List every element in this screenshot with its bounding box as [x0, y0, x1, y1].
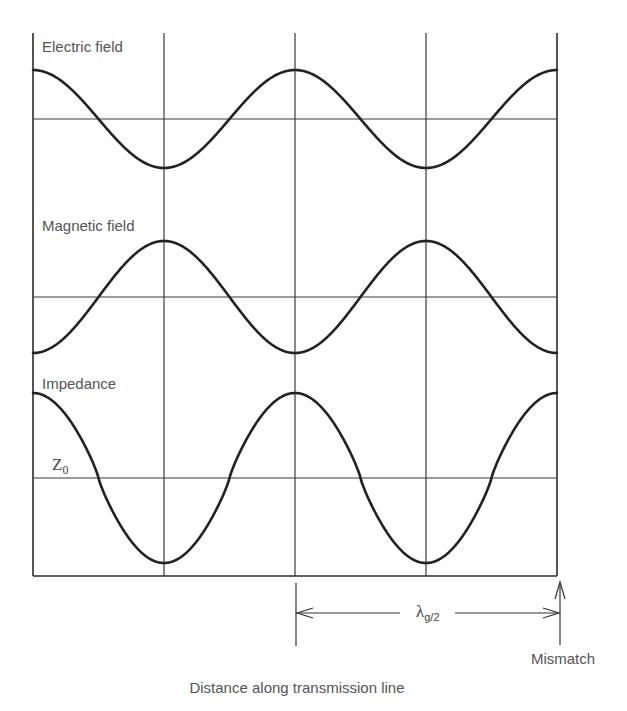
- electric-field-label: Electric field: [42, 38, 123, 55]
- transmission-line-standing-wave-diagram: Electric field Magnetic field Impedance …: [0, 0, 627, 711]
- mismatch-label: Mismatch: [531, 650, 595, 667]
- z0-label: Z0: [52, 455, 68, 477]
- grid: [33, 33, 557, 576]
- wavelength-label: λg/2: [416, 602, 440, 623]
- impedance-label: Impedance: [42, 375, 116, 392]
- wavelength-dimension: λg/2: [296, 583, 559, 646]
- magnetic-field-label: Magnetic field: [42, 217, 135, 234]
- x-axis-caption: Distance along transmission line: [189, 679, 404, 696]
